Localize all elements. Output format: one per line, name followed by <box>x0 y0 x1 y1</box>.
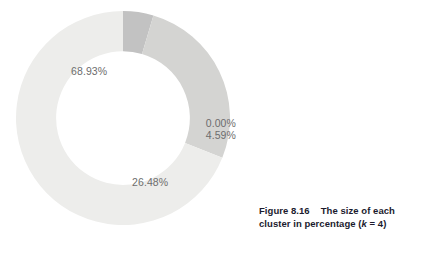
figure-caption-line1: The size of each <box>321 205 395 216</box>
slice-label-cluster2: 4.59% <box>180 130 236 142</box>
figure-caption-number: Figure 8.16 <box>259 205 310 216</box>
slice-label-cluster3: 26.48% <box>132 177 168 189</box>
figure-caption-line2-pre: cluster in percentage ( <box>259 218 362 229</box>
figure-caption: Figure 8.16The size of each cluster in p… <box>259 204 419 230</box>
donut-chart: 68.93% 26.48% 0.00% 4.59% <box>10 5 238 233</box>
figure-container: 68.93% 26.48% 0.00% 4.59% Figure 8.16The… <box>0 0 429 255</box>
slice-label-cluster4: 68.93% <box>71 66 107 78</box>
slice-label-cluster1: 0.00% <box>180 118 236 130</box>
figure-caption-line2-post: = 4) <box>367 218 387 229</box>
slice-label-group-right: 0.00% 4.59% <box>180 118 236 141</box>
